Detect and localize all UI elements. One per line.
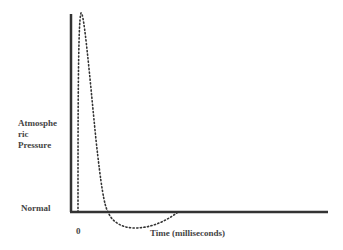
y-label-line-2: ric xyxy=(18,129,57,140)
x-tick-zero: 0 xyxy=(76,226,81,237)
y-axis-label: Atmosphe ric Pressure xyxy=(18,118,57,151)
y-label-line-1: Atmosphe xyxy=(18,118,57,129)
y-label-line-3: Pressure xyxy=(18,140,57,151)
y-tick-normal: Normal xyxy=(21,203,51,214)
x-axis-label: Time (milliseconds) xyxy=(150,228,225,239)
pressure-curve xyxy=(78,13,178,228)
